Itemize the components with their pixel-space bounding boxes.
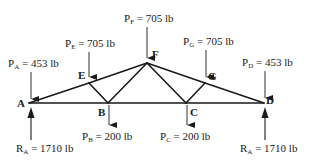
node-label-F: F xyxy=(152,48,159,60)
member-GD xyxy=(205,83,264,103)
truss-members xyxy=(29,63,264,103)
node-label-C: C xyxy=(190,106,198,118)
load-label-PC: PC = 200 lb xyxy=(160,130,211,144)
load-label-PB: PB = 200 lb xyxy=(82,130,133,144)
load-label-PG: PG = 705 lb xyxy=(183,35,234,49)
truss-diagram: A B C D E F G PA = 453 lb PE = 705 lb PF… xyxy=(0,0,311,161)
load-label-PD: PD = 453 lb xyxy=(242,56,293,70)
load-labels: PA = 453 lb PE = 705 lb PF = 705 lb PG =… xyxy=(8,12,293,144)
node-label-G: G xyxy=(208,70,217,82)
reaction-arrows xyxy=(28,107,269,140)
node-label-B: B xyxy=(98,106,106,118)
reaction-label-left: RA = 1710 lb xyxy=(16,142,74,156)
member-CG xyxy=(186,83,205,103)
reaction-labels: RA = 1710 lb RA = 1710 lb xyxy=(16,142,298,156)
reaction-label-right: RA = 1710 lb xyxy=(240,142,298,156)
node-label-E: E xyxy=(78,69,85,81)
load-label-PE: PE = 705 lb xyxy=(65,37,115,51)
load-label-PA: PA = 453 lb xyxy=(8,57,59,71)
node-label-D: D xyxy=(266,94,274,106)
arrow-up-head xyxy=(28,107,35,118)
arrow-up-head xyxy=(262,107,269,118)
member-EB xyxy=(89,83,108,103)
load-label-PF: PF = 705 lb xyxy=(124,12,174,26)
member-AE xyxy=(29,83,89,103)
node-label-A: A xyxy=(17,97,25,109)
